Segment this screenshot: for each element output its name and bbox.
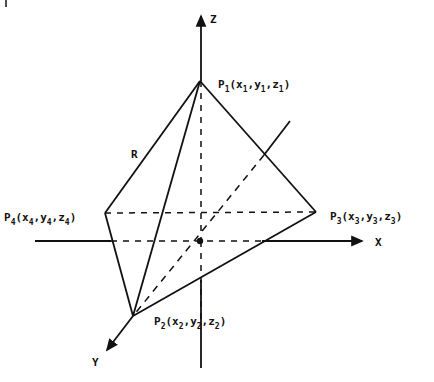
z-axis-label: Z [210,13,217,26]
edge-label-r: R [131,148,138,161]
point-label-p2: P2(x2,y2,z2) [154,315,226,331]
edge-p4-p3-hidden [105,212,316,213]
svg-text:P2(x2,y2,z2): P2(x2,y2,z2) [154,315,226,331]
edge-p1-p4 [105,81,200,213]
y-axis-back [264,121,290,155]
y-axis-label: Y [92,356,99,369]
y-axis-front [107,316,133,350]
edge-p4-p2 [105,213,133,316]
edge-p1-p3 [200,81,316,212]
svg-text:P3(x3,y3,z3): P3(x3,y3,z3) [330,210,402,226]
x-axis-label: X [375,236,382,249]
point-label-p4: P4(x4,y4,z4) [4,211,76,227]
point-label-p1: P1(x1,y1,z1) [218,78,290,94]
y-axis-hidden [133,155,264,316]
origin-point [197,238,203,244]
edge-p1-p2 [133,81,200,316]
svg-text:P4(x4,y4,z4): P4(x4,y4,z4) [4,211,76,227]
edge-p2-p3 [133,212,316,316]
tetrahedron-diagram: Z X Y R P1(x1,y1,z1) P2(x2,y2,z2) P3(x3,… [0,0,434,382]
svg-text:P1(x1,y1,z1): P1(x1,y1,z1) [218,78,290,94]
point-label-p3: P3(x3,y3,z3) [330,210,402,226]
